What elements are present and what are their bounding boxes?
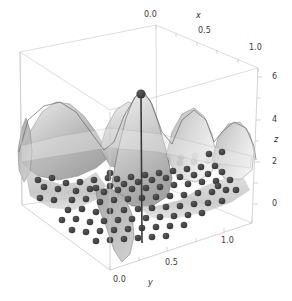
y-tick-1: 0.5 — [165, 258, 178, 267]
surface-plot-figure: 0.0 0.5 1.0 x 0.0 0.5 1.0 y 6 4 2 0 z — [0, 0, 292, 301]
peak-marker-sphere — [136, 89, 145, 98]
x-axis-title: x — [196, 11, 201, 20]
y-axis-title: y — [148, 278, 153, 287]
z-tick-2: 2 — [272, 157, 277, 166]
y-tick-0: 0.0 — [113, 275, 126, 284]
z-tick-4: 4 — [272, 115, 277, 124]
x-tick-2: 1.0 — [249, 43, 262, 52]
peak-marker-stem — [141, 95, 142, 243]
y-tick-2: 1.0 — [221, 236, 234, 245]
z-tick-6: 6 — [272, 72, 277, 81]
z-axis-title: z — [274, 135, 278, 144]
x-tick-0: 0.0 — [144, 10, 157, 19]
z-axis-ticks — [253, 77, 262, 204]
x-tick-1: 0.5 — [198, 26, 211, 35]
z-tick-0: 0 — [272, 199, 277, 208]
